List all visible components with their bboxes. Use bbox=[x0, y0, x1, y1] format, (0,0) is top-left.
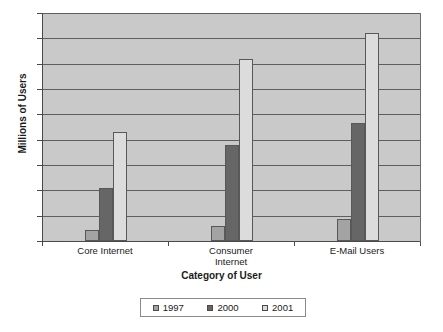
bar-1997-e-mail-users bbox=[337, 219, 351, 241]
bar-2001-core-internet bbox=[113, 132, 127, 241]
y-tick-mark bbox=[37, 64, 42, 65]
bar-2000-e-mail-users bbox=[351, 123, 365, 241]
bar-2000-core-internet bbox=[99, 188, 113, 241]
legend-item-2001: 2001 bbox=[262, 303, 293, 313]
y-tick-mark bbox=[37, 114, 42, 115]
x-category-label: Consumer Internet bbox=[181, 245, 281, 267]
legend-label: 2000 bbox=[217, 303, 238, 313]
plot-right-border bbox=[420, 13, 421, 242]
y-tick-mark bbox=[37, 190, 42, 191]
bar-1997-consumer-internet bbox=[211, 226, 225, 241]
legend-item-1997: 1997 bbox=[153, 303, 184, 313]
x-category-label: E-Mail Users bbox=[307, 245, 407, 256]
y-tick-mark bbox=[37, 140, 42, 141]
x-tick-mark bbox=[42, 242, 43, 246]
bar-2001-consumer-internet bbox=[239, 59, 253, 241]
y-axis-title: Millions of Users bbox=[17, 44, 28, 184]
x-tick-mark bbox=[420, 242, 421, 246]
y-tick-mark bbox=[37, 89, 42, 90]
bar-2001-e-mail-users bbox=[365, 33, 379, 241]
x-category-label: Core Internet bbox=[55, 245, 155, 256]
y-tick-mark bbox=[37, 38, 42, 39]
gridline bbox=[43, 13, 421, 14]
y-tick-mark bbox=[37, 216, 42, 217]
x-tick-mark bbox=[294, 242, 295, 246]
x-axis-title: Category of User bbox=[0, 270, 443, 281]
bar-1997-core-internet bbox=[85, 230, 99, 241]
legend-label: 1997 bbox=[163, 303, 184, 313]
legend-swatch-icon bbox=[262, 305, 268, 311]
y-tick-mark bbox=[37, 13, 42, 14]
y-tick-mark bbox=[37, 165, 42, 166]
legend-item-2000: 2000 bbox=[207, 303, 238, 313]
legend-swatch-icon bbox=[153, 305, 159, 311]
plot-area bbox=[42, 13, 421, 242]
bar-2000-consumer-internet bbox=[225, 145, 239, 241]
chart-legend: 199720002001 bbox=[140, 298, 306, 317]
legend-swatch-icon bbox=[207, 305, 213, 311]
x-tick-mark bbox=[168, 242, 169, 246]
legend-label: 2001 bbox=[272, 303, 293, 313]
bar-chart: Millions of Users 0100200300400500600700… bbox=[0, 0, 443, 332]
